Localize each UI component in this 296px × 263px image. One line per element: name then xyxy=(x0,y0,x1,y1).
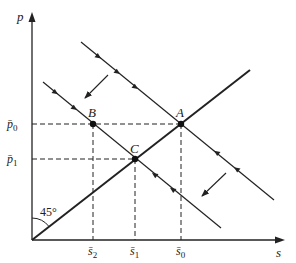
y-tick-p0: p̄0 xyxy=(6,117,18,133)
x-axis-arrow-icon xyxy=(275,237,285,244)
point-A xyxy=(178,121,184,127)
x-tick-s1: s̄1 xyxy=(130,244,139,260)
point-B xyxy=(90,121,96,127)
flow-arrows xyxy=(52,53,241,193)
angle-arc xyxy=(32,218,49,227)
point-C xyxy=(132,156,138,162)
shift-arrow-upper xyxy=(85,75,108,98)
y-tick-p1: p̄1 xyxy=(6,152,18,168)
angle-label: 45° xyxy=(40,205,57,219)
phase-diagram: A B C p s p̄0 p̄1 s̄2 s̄1 s̄0 45° xyxy=(0,0,296,263)
label-C: C xyxy=(130,141,139,156)
x-tick-s2: s̄2 xyxy=(88,244,97,260)
y-axis-label: p xyxy=(16,9,24,24)
shift-arrow-lower xyxy=(202,173,226,196)
x-axis-label: s xyxy=(276,245,281,260)
y-axis-arrow-icon xyxy=(29,12,36,22)
x-tick-s0: s̄0 xyxy=(176,244,186,260)
label-A: A xyxy=(175,105,184,120)
label-B: B xyxy=(88,105,96,120)
upper-saddle-path xyxy=(81,42,274,200)
